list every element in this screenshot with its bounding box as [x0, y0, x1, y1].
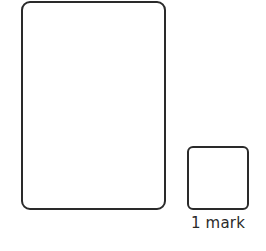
marks-label: 1 mark — [184, 214, 252, 232]
answer-box[interactable] — [187, 146, 249, 210]
working-box[interactable] — [21, 1, 166, 210]
